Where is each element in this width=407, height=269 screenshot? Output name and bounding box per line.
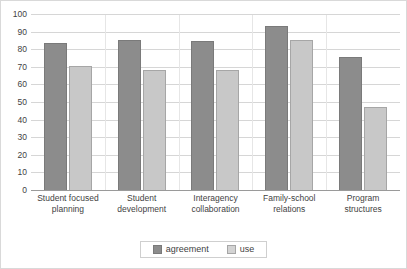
y-tick-label-80: 80	[18, 45, 27, 54]
y-tick-label-90: 90	[18, 27, 27, 36]
bar-group	[252, 15, 326, 191]
bar-use[interactable]	[364, 107, 387, 191]
legend-entry-agreement[interactable]: agreement	[153, 245, 209, 254]
category-label: Student focused planning	[31, 193, 105, 215]
legend-swatch-agreement	[153, 245, 162, 254]
category-label: Interagency collaboration	[179, 193, 253, 215]
bar-group	[179, 15, 253, 191]
y-tick-label-70: 70	[18, 63, 27, 72]
plot-area: 1009080706050403020100	[31, 15, 400, 191]
legend-swatch-use	[227, 245, 236, 254]
bar-use[interactable]	[143, 70, 166, 191]
legend-entry-use[interactable]: use	[227, 245, 255, 254]
bar-chart-figure: 1009080706050403020100 Student focused p…	[0, 0, 407, 269]
bar-use[interactable]	[69, 66, 92, 191]
bar-group	[326, 15, 400, 191]
bar-agreement[interactable]	[265, 26, 288, 191]
category-label: Program structures	[326, 193, 400, 215]
y-tick-label-50: 50	[18, 98, 27, 107]
x-axis-category-labels: Student focused planningStudent developm…	[31, 193, 400, 215]
y-tick-label-60: 60	[18, 80, 27, 89]
bar-series-container	[31, 15, 400, 191]
y-tick-label-20: 20	[18, 151, 27, 160]
legend-label-agreement: agreement	[166, 245, 209, 254]
bar-group	[31, 15, 105, 191]
bar-use[interactable]	[290, 40, 313, 191]
y-tick-label-0: 0	[22, 186, 27, 195]
y-tick-label-30: 30	[18, 133, 27, 142]
bar-agreement[interactable]	[44, 43, 67, 191]
category-label: Student development	[105, 193, 179, 215]
bar-agreement[interactable]	[339, 57, 362, 191]
y-tick-label-40: 40	[18, 115, 27, 124]
bar-group	[105, 15, 179, 191]
legend: agreementuse	[1, 241, 406, 258]
bar-agreement[interactable]	[118, 40, 141, 191]
legend-box: agreementuse	[140, 241, 268, 258]
bar-agreement[interactable]	[191, 41, 214, 191]
legend-label-use: use	[240, 245, 255, 254]
x-axis-baseline	[31, 190, 400, 191]
y-tick-label-10: 10	[18, 168, 27, 177]
category-label: Family-school relations	[252, 193, 326, 215]
y-tick-label-100: 100	[13, 10, 27, 19]
bar-use[interactable]	[216, 70, 239, 191]
